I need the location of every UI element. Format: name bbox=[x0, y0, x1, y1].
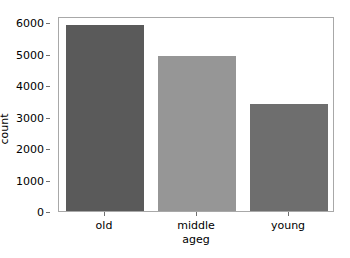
x-axis-label: ageg bbox=[182, 234, 209, 246]
y-tick-mark bbox=[46, 118, 50, 119]
y-tick-mark bbox=[46, 149, 50, 150]
x-tick-mark bbox=[104, 212, 105, 216]
y-tick-mark bbox=[46, 181, 50, 182]
y-tick-label: 6000 bbox=[16, 18, 44, 29]
bar-old bbox=[66, 25, 143, 211]
y-tick-mark bbox=[46, 23, 50, 24]
y-tick-mark bbox=[46, 86, 50, 87]
y-tick-label: 2000 bbox=[16, 144, 44, 155]
bar-middle bbox=[158, 56, 235, 211]
plot-area bbox=[58, 17, 334, 212]
y-tick-label: 3000 bbox=[16, 112, 44, 123]
y-tick-label: 1000 bbox=[16, 175, 44, 186]
x-tick-label-old: old bbox=[96, 220, 113, 232]
y-axis-label: count bbox=[0, 113, 10, 144]
x-tick-label-middle: middle bbox=[177, 220, 215, 232]
x-tick-mark bbox=[288, 212, 289, 216]
y-tick-label: 5000 bbox=[16, 49, 44, 60]
y-tick-mark bbox=[46, 55, 50, 56]
bar-chart-figure: count 0100020003000400050006000 oldmiddl… bbox=[0, 0, 350, 258]
y-tick-label: 4000 bbox=[16, 81, 44, 92]
x-axis: oldmiddleyoung ageg bbox=[0, 212, 350, 258]
x-tick-mark bbox=[196, 212, 197, 216]
x-tick-label-young: young bbox=[271, 220, 305, 232]
bar-young bbox=[250, 104, 327, 211]
